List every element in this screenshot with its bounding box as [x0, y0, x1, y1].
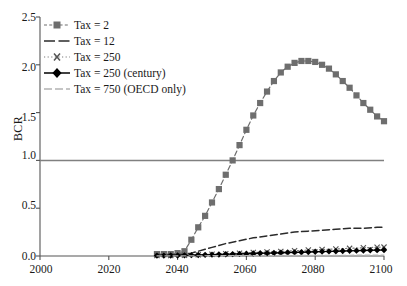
y-tick-label: 2.5 — [2, 11, 36, 23]
bcr-line-chart: BCR 2.5 2.0 1.5 1.0 0.5 0.0 2000 2020 20… — [0, 0, 407, 286]
legend-label: Tax = 250 (century) — [74, 67, 166, 79]
y-tick-label: 1.5 — [2, 111, 36, 123]
legend-entry-tax-2: Tax = 2 — [44, 17, 186, 33]
x-tick-label: 2080 — [289, 263, 337, 275]
y-tick-label: 2.0 — [2, 61, 36, 73]
light-dashed-key — [44, 81, 70, 97]
diamond-solid-key — [44, 65, 70, 81]
series-tax-2 — [154, 58, 387, 257]
x-tick-label: 2040 — [153, 263, 201, 275]
legend-label: Tax = 750 (OECD only) — [74, 83, 186, 95]
series-tax-750-oecd-only — [157, 255, 384, 256]
chart-legend: Tax = 2 Tax = 12 Tax = 250 Tax = 250 (ce… — [44, 17, 186, 97]
legend-label: Tax = 250 — [74, 51, 121, 63]
legend-entry-tax-250-century: Tax = 250 (century) — [44, 65, 186, 81]
y-tick-label: 1.0 — [2, 149, 36, 161]
x-tick-label: 2000 — [17, 263, 65, 275]
legend-entry-tax-12: Tax = 12 — [44, 33, 186, 49]
dark-dashed-key — [44, 33, 70, 49]
x-tick-label: 2100 — [357, 263, 405, 275]
x-tick-label: 2020 — [85, 263, 133, 275]
legend-entry-tax-250: Tax = 250 — [44, 49, 186, 65]
legend-label: Tax = 2 — [74, 19, 109, 31]
y-tick-label: 0.5 — [2, 199, 36, 211]
legend-label: Tax = 12 — [74, 35, 115, 47]
legend-entry-tax-750-oecd: Tax = 750 (OECD only) — [44, 81, 186, 97]
data-series-layer — [154, 58, 387, 259]
square-dashed-key — [44, 17, 70, 33]
y-tick-label: 0.0 — [2, 250, 36, 262]
cross-dotted-key — [44, 49, 70, 65]
x-tick-label: 2060 — [221, 263, 269, 275]
